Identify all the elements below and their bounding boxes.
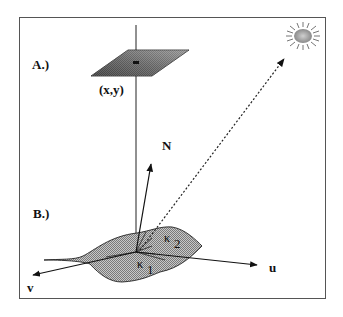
kappa1-subscript: 1 xyxy=(147,262,154,277)
light-direction-arrow xyxy=(140,59,284,250)
normal-label: N xyxy=(162,138,172,153)
pixel-coord-label: (x,y) xyxy=(99,82,124,97)
kappa2-label: κ xyxy=(164,231,170,245)
sun-icon xyxy=(286,22,320,50)
kappa1-label: κ xyxy=(137,257,143,271)
diagram-canvas: A.) B.) (x,y) N u v κ 1 κ 2 xyxy=(0,0,343,317)
panel-a-label: A.) xyxy=(32,57,49,72)
image-plane-texture xyxy=(91,50,189,76)
kappa2-subscript: 2 xyxy=(174,236,181,251)
u-axis-label: u xyxy=(269,260,276,275)
pixel-marker xyxy=(133,61,139,64)
panel-b-label: B.) xyxy=(33,206,49,221)
v-axis-label: v xyxy=(27,280,34,295)
